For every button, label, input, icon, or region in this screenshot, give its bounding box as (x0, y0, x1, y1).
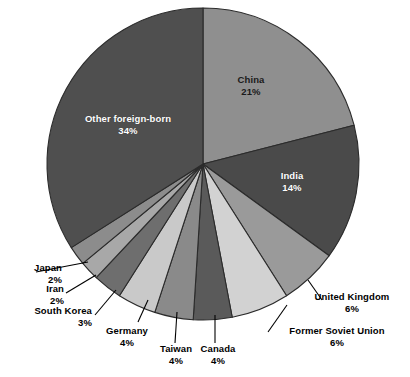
slice-label-united-kingdom-name: United Kingdom (296, 291, 408, 303)
slice-label-iran: Iran 2% (14, 283, 64, 306)
slice-label-former-soviet-union-name: Former Soviet Union (270, 325, 404, 337)
slice-label-former-soviet-union: Former Soviet Union 6% (270, 325, 404, 348)
slice-label-india: India 14% (252, 170, 332, 193)
slice-label-canada: Canada 4% (187, 343, 249, 366)
pie-chart: China 21% India 14% Other foreign-born 3… (0, 0, 410, 377)
slice-label-germany-name: Germany (92, 325, 162, 337)
slice-label-other-foreign-born-pct: 34% (58, 125, 198, 137)
leader-line-south-korea (95, 290, 116, 315)
slice-label-china: China 21% (205, 74, 297, 97)
slice-label-south-korea: South Korea 3% (8, 305, 92, 328)
slice-label-south-korea-pct: 3% (8, 317, 92, 329)
slice-label-canada-name: Canada (187, 343, 249, 355)
slice-label-iran-name: Iran (14, 283, 64, 295)
slice-label-south-korea-name: South Korea (8, 305, 92, 317)
slice-label-canada-pct: 4% (187, 355, 249, 367)
slice-label-japan: Japan 2% (0, 262, 62, 285)
slice-label-india-name: India (252, 170, 332, 182)
slice-label-united-kingdom: United Kingdom 6% (296, 291, 408, 314)
slice-label-india-pct: 14% (252, 182, 332, 194)
pie-slices-group (47, 8, 359, 320)
slice-label-other-foreign-born-name: Other foreign-born (58, 113, 198, 125)
leader-line-iran (66, 275, 96, 293)
slice-label-china-pct: 21% (205, 86, 297, 98)
slice-label-japan-name: Japan (0, 262, 62, 274)
slice-label-former-soviet-union-pct: 6% (270, 337, 404, 349)
slice-label-united-kingdom-pct: 6% (296, 303, 408, 315)
slice-label-china-name: China (205, 74, 297, 86)
slice-label-other-foreign-born: Other foreign-born 34% (58, 113, 198, 136)
